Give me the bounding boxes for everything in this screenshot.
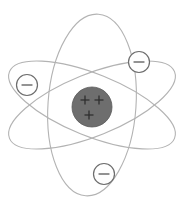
atom-diagram: Atom diagram (0, 0, 184, 206)
nucleus (72, 87, 112, 127)
atom-canvas (0, 0, 184, 206)
electron-top-right (129, 52, 150, 73)
electron-left (17, 75, 38, 96)
nucleus-circle (72, 87, 112, 127)
electron-bottom (94, 164, 115, 185)
